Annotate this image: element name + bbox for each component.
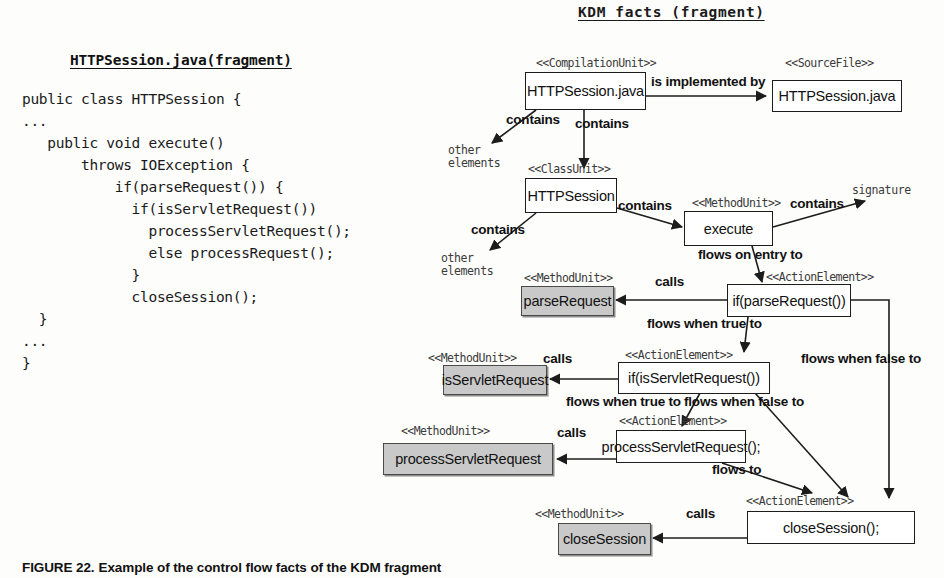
edge-label-is-implemented-by: is implemented by (651, 74, 765, 89)
figure-caption: FIGURE 22.Example of the control flow fa… (22, 560, 441, 575)
node-action-if-parse-request[interactable]: if(parseRequest()) (727, 284, 851, 317)
node-action-if-parse-request-label: if(parseRequest()) (732, 293, 845, 309)
node-class-unit-label: HTTPSession (527, 188, 614, 204)
stereotype-action-if-parse-request: <<ActionElement>> (766, 270, 874, 284)
node-action-process-servlet-request-label: processServletRequest(); (602, 439, 761, 455)
terminal-other-elements-2: other elements (441, 252, 493, 278)
edge-label-calls-process-servlet-request: calls (557, 425, 586, 440)
edge-label-calls-is-servlet-request: calls (543, 351, 572, 366)
node-method-parse-request-label: parseRequest (524, 293, 612, 309)
node-action-if-is-servlet-request[interactable]: if(isServletRequest()) (618, 362, 770, 394)
node-method-process-servlet-request-label: processServletRequest (395, 451, 541, 467)
edge-label-flows-when-true-2: flows when true to (566, 394, 681, 409)
node-action-if-is-servlet-request-label: if(isServletRequest()) (628, 370, 760, 386)
node-source-file-label: HTTPSession.java (779, 88, 896, 104)
stereotype-method-parse-request: <<MethodUnit>> (524, 271, 613, 285)
edge-label-contains-method-execute: contains (618, 198, 672, 213)
diagram-title: KDM facts (fragment) (578, 4, 765, 20)
stereotype-method-process-servlet-request: <<MethodUnit>> (401, 424, 490, 438)
edge-label-flows-on-entry-to: flows on entry to (698, 247, 803, 262)
edge-label-flows-when-false-1: flows when false to (801, 351, 921, 366)
edge-label-contains-class-unit: contains (575, 116, 629, 131)
code-panel-source: public class HTTPSession { ... public vo… (22, 88, 442, 374)
edge-label-calls-parse-request: calls (655, 274, 684, 289)
node-source-file[interactable]: HTTPSession.java (772, 80, 902, 112)
figure-caption-number: FIGURE 22. (22, 560, 95, 575)
node-method-process-servlet-request[interactable]: processServletRequest (383, 443, 553, 475)
stereotype-action-process-servlet-request: <<ActionElement>> (619, 414, 727, 428)
edge-label-contains-other-2: contains (471, 222, 525, 237)
stereotype-class-unit: <<ClassUnit>> (528, 162, 610, 176)
edge-label-contains-other-1: contains (506, 112, 560, 127)
stereotype-method-is-servlet-request: <<MethodUnit>> (428, 351, 517, 365)
terminal-other-elements-1: other elements (448, 144, 500, 170)
terminal-signature: signature (852, 184, 911, 197)
node-method-execute-label: execute (704, 221, 753, 237)
node-class-unit[interactable]: HTTPSession (525, 178, 617, 213)
node-action-close-session[interactable]: closeSession(); (747, 511, 915, 544)
node-method-close-session[interactable]: closeSession (558, 523, 651, 555)
node-action-process-servlet-request[interactable]: processServletRequest(); (616, 430, 746, 463)
stereotype-compilation-unit: <<CompilationUnit>> (536, 56, 656, 70)
stereotype-action-if-is-servlet-request: <<ActionElement>> (625, 348, 733, 362)
edge-flows-when-false-1 (851, 300, 889, 498)
stereotype-method-close-session: <<MethodUnit>> (535, 507, 624, 521)
stereotype-action-close-session: <<ActionElement>> (746, 494, 854, 508)
node-method-close-session-label: closeSession (563, 531, 646, 547)
edge-label-flows-when-true-1: flows when true to (647, 316, 762, 331)
edge-label-contains-signature: contains (790, 196, 844, 211)
edge-label-flows-to: flows to (712, 462, 761, 477)
node-method-parse-request[interactable]: parseRequest (521, 286, 614, 316)
edge-label-flows-when-false-2: flows when false to (684, 394, 804, 409)
node-compilation-unit-label: HTTPSession.java (527, 83, 644, 99)
edge-label-calls-close-session: calls (686, 506, 715, 521)
figure-caption-text: Example of the control flow facts of the… (99, 560, 442, 575)
code-panel-title: HTTPSession.java(fragment) (70, 52, 442, 68)
node-method-is-servlet-request-label: isServletRequest (442, 372, 548, 388)
code-panel: HTTPSession.java(fragment) public class … (22, 52, 442, 374)
node-method-is-servlet-request[interactable]: isServletRequest (443, 365, 547, 395)
figure-page: HTTPSession.java(fragment) public class … (0, 0, 944, 578)
node-action-close-session-label: closeSession(); (783, 520, 879, 536)
node-compilation-unit[interactable]: HTTPSession.java (525, 72, 646, 110)
stereotype-method-execute: <<MethodUnit>> (692, 196, 781, 210)
stereotype-source-file: <<SourceFile>> (785, 56, 874, 70)
node-method-execute[interactable]: execute (684, 211, 773, 246)
